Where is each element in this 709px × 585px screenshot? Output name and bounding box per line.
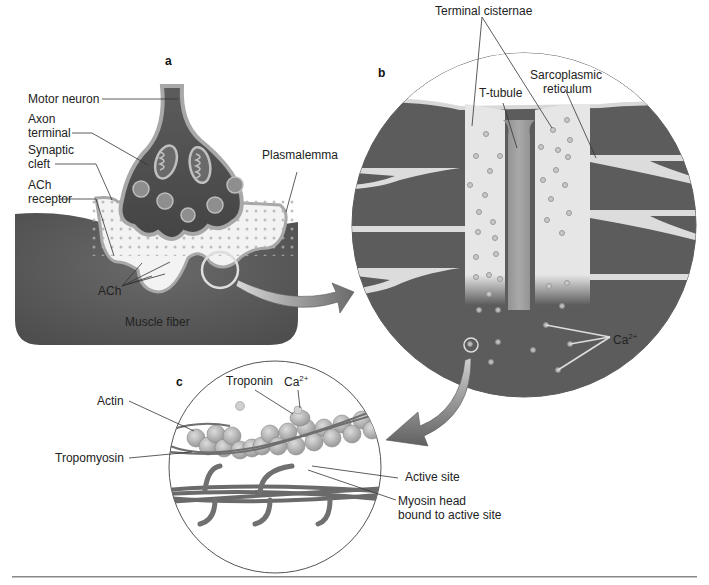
- calcium-charge: 2+: [299, 374, 308, 383]
- calcium-ion: [236, 402, 245, 411]
- label-sarcoplasmic-reticulum-line2: reticulum: [543, 82, 592, 96]
- label-myosin-head-line1: Myosin head: [398, 494, 466, 508]
- label-calcium-b: Ca2+: [613, 330, 637, 347]
- label-myosin-head-line2: bound to active site: [398, 508, 501, 522]
- label-troponin: Troponin: [226, 374, 273, 388]
- label-tropomyosin: Tropomyosin: [55, 451, 124, 465]
- bottom-rule: [12, 576, 697, 578]
- panel-b-sarcoplasmic-reticulum: [340, 17, 709, 446]
- muscle-contraction-diagram: a b c Motor neuron Axon terminal Synapti…: [0, 0, 709, 585]
- panel-c-actin-myosin: [129, 361, 398, 573]
- label-actin: Actin: [97, 394, 124, 408]
- label-plasmalemma: Plasmalemma: [262, 148, 338, 162]
- label-ach: ACh: [98, 284, 121, 298]
- label-sarcoplasmic-reticulum-line1: Sarcoplasmic: [530, 68, 602, 82]
- label-terminal-cisternae: Terminal cisternae: [435, 4, 532, 18]
- calcium-charge: 2+: [628, 332, 637, 341]
- label-active-site: Active site: [405, 470, 460, 484]
- label-axon-terminal-line2: terminal: [28, 126, 71, 140]
- label-ach-receptor-line2: receptor: [28, 192, 72, 206]
- panel-label-c: c: [176, 375, 183, 389]
- label-axon-terminal-line1: Axon: [28, 112, 55, 126]
- label-calcium-c: Ca2+: [284, 372, 308, 389]
- panel-a-neuromuscular-junction: [15, 86, 354, 345]
- calcium-symbol: Ca: [284, 375, 299, 389]
- terminal-cisterna-right: [535, 104, 590, 305]
- label-muscle-fiber: Muscle fiber: [125, 315, 190, 329]
- label-synaptic-cleft-line2: cleft: [28, 157, 50, 171]
- label-motor-neuron: Motor neuron: [28, 92, 99, 106]
- panel-label-a: a: [165, 54, 172, 68]
- label-ach-receptor-line1: ACh: [28, 178, 51, 192]
- label-t-tubule: T-tubule: [479, 86, 522, 100]
- label-synaptic-cleft-line1: Synaptic: [28, 143, 74, 157]
- calcium-symbol: Ca: [613, 333, 628, 347]
- panel-label-b: b: [378, 66, 385, 80]
